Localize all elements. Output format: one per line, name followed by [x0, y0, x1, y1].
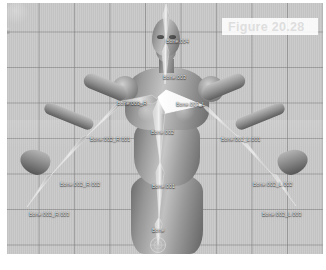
- page-margin-left: [0, 0, 7, 270]
- bone-label-Bone.003_R: Bone.003_R: [117, 101, 147, 106]
- bone-label-Bone.002_R.003: Bone.002_R.003: [29, 212, 69, 217]
- bone-label-Bone.002: Bone.002: [151, 130, 174, 135]
- viewport-grid-floor: Bone.004 Bone.003 Bone.003_R Bone.003_L …: [6, 2, 324, 254]
- bone-label-Bone.002_R.002: Bone.002_R.002: [60, 182, 100, 187]
- page-margin-top: [0, 0, 326, 3]
- bone-octahedron-Bone.002_L.003[interactable]: [271, 173, 296, 206]
- bone-octahedron-Bone.002_R.002[interactable]: [52, 135, 88, 174]
- bone-root-widget[interactable]: [151, 238, 166, 253]
- bone-label-Bone.002_R.001: Bone.002_R.001: [90, 137, 130, 142]
- page-margin-bottom: [0, 254, 326, 270]
- bone-octahedron-Bone.004[interactable]: [163, 4, 169, 42]
- blender-3d-viewport: Bone.004 Bone.003 Bone.003_R Bone.003_L …: [0, 0, 326, 270]
- bone-label-Bone.002_L.001: Bone.002_L.001: [221, 137, 260, 142]
- bone-octahedron-Bone.002_R.003[interactable]: [27, 174, 52, 207]
- bone-label-Bone.003_L: Bone.003_L: [176, 102, 205, 107]
- bone-label-Bone.003: Bone.003: [163, 75, 186, 80]
- figure-caption: Figure 20.28: [228, 20, 316, 34]
- bone-octahedron-Bone.002_L.001[interactable]: [202, 105, 236, 135]
- bone-octahedron-Bone.001[interactable]: [156, 162, 164, 217]
- bone-label-Bone.004: Bone.004: [166, 39, 189, 44]
- bone-label-Bone: Bone: [152, 228, 165, 233]
- bone-label-Bone.001: Bone.001: [152, 184, 175, 189]
- bone-label-Bone.002_L.002: Bone.002_L.002: [253, 182, 292, 187]
- bone-label-Bone.002_L.003: Bone.002_L.003: [262, 212, 301, 217]
